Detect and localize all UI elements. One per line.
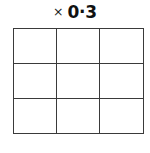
multiplier-label: × 0·3: [0, 1, 150, 23]
grid-cell[interactable]: [14, 29, 57, 64]
multiplication-grid-figure: × 0·3: [0, 0, 150, 153]
grid-cell[interactable]: [100, 64, 144, 99]
answer-grid: [13, 28, 144, 134]
multiplication-sign-icon: ×: [53, 6, 63, 19]
multiplier-value: 0·3: [67, 4, 97, 21]
table-row: [14, 64, 144, 99]
grid-cell[interactable]: [57, 64, 100, 99]
table-row: [14, 29, 144, 64]
grid-cell[interactable]: [57, 29, 100, 64]
grid-cell[interactable]: [100, 99, 144, 134]
grid-cell[interactable]: [14, 64, 57, 99]
grid-cell[interactable]: [14, 99, 57, 134]
grid-cell[interactable]: [57, 99, 100, 134]
grid-cell[interactable]: [100, 29, 144, 64]
table-row: [14, 99, 144, 134]
